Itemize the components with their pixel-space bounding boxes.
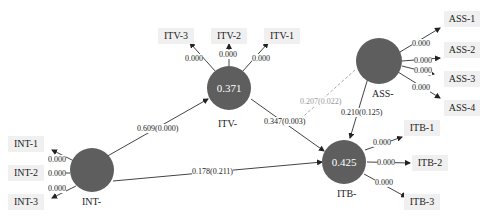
path-itv-itb: 0.347(0.003) bbox=[264, 117, 305, 126]
latent-ass[interactable] bbox=[356, 38, 402, 84]
loading-ass-4: 0.000 bbox=[412, 83, 430, 92]
indicator-ass-2[interactable]: ASS-2 bbox=[444, 42, 480, 58]
loading-itb-1: 0.000 bbox=[373, 138, 391, 147]
latent-itb[interactable]: 0.425 bbox=[322, 140, 366, 184]
loading-itv-1: 0.000 bbox=[252, 54, 270, 63]
loading-itv-3: 0.000 bbox=[185, 54, 203, 63]
loading-itb-3: 0.000 bbox=[375, 178, 393, 187]
indicator-ass-4[interactable]: ASS-4 bbox=[444, 100, 480, 116]
path-int-itv: 0.609(0.000) bbox=[137, 124, 178, 133]
latent-int-label: INT- bbox=[82, 196, 101, 207]
loading-ass-3: 0.000 bbox=[414, 66, 432, 75]
indicator-ass-3[interactable]: ASS-3 bbox=[444, 71, 480, 87]
indicator-itv-3[interactable]: ITV-3 bbox=[158, 28, 194, 44]
indicator-int-2[interactable]: INT-2 bbox=[8, 165, 44, 181]
indicator-int-1[interactable]: INT-1 bbox=[8, 136, 44, 152]
indicator-itb-3[interactable]: ITB-3 bbox=[404, 194, 440, 210]
latent-int[interactable] bbox=[70, 148, 114, 192]
latent-itv-label: ITV- bbox=[218, 118, 237, 129]
indicator-ass-1[interactable]: ASS-1 bbox=[444, 11, 480, 27]
indicator-itb-2[interactable]: ITB-2 bbox=[412, 155, 448, 171]
loading-itv-2: 0.000 bbox=[219, 50, 237, 59]
loading-int-2: 0.000 bbox=[48, 169, 66, 178]
latent-itv[interactable]: 0.371 bbox=[207, 66, 251, 110]
path-ass-itb: 0.210(0.125) bbox=[341, 108, 382, 117]
path-int-itb: 0.178(0.211) bbox=[192, 167, 233, 176]
indicator-int-3[interactable]: INT-3 bbox=[8, 194, 44, 210]
indicator-itb-1[interactable]: ITB-1 bbox=[404, 120, 440, 136]
loading-int-1: 0.000 bbox=[48, 155, 66, 164]
loading-ass-1: 0.000 bbox=[412, 39, 430, 48]
loading-itb-2: 0.000 bbox=[377, 158, 395, 167]
latent-itb-label: ITB- bbox=[337, 188, 356, 199]
path-ass-dashed: 0.207(0.022) bbox=[300, 97, 341, 106]
loading-ass-2: 0.000 bbox=[414, 56, 432, 65]
loading-int-3: 0.000 bbox=[48, 184, 66, 193]
indicator-itv-1[interactable]: ITV-1 bbox=[264, 28, 300, 44]
latent-ass-label: ASS- bbox=[372, 88, 394, 99]
indicator-itv-2[interactable]: ITV-2 bbox=[211, 28, 247, 44]
